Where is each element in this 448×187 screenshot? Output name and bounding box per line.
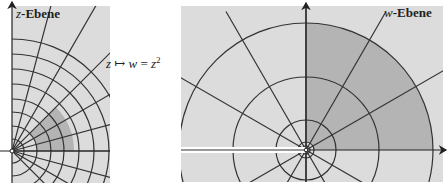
mapping-lhs: z <box>106 56 111 71</box>
z-plane-panel <box>0 0 212 187</box>
w-plane-word: -Ebene <box>393 5 432 20</box>
mapping-exponent: 2 <box>156 55 161 65</box>
maps-to-arrow: ↦ <box>114 56 125 71</box>
z-origin <box>10 149 14 153</box>
w-plane-label: w-Ebene <box>384 5 432 21</box>
w-plane-variable: w <box>384 5 393 20</box>
mapping-formula: z ↦ w = z2 <box>106 55 161 72</box>
z-plane-word: -Ebene <box>21 6 60 21</box>
w-origin <box>304 148 308 152</box>
w-plane-panel <box>167 0 446 187</box>
mapping-rhs-var: w <box>128 56 137 71</box>
equals-sign: = <box>140 56 147 71</box>
z-plane-label: z-Ebene <box>16 6 60 22</box>
conformal-map-diagram: z-Ebene z ↦ w = z2 w-Ebene <box>0 0 448 187</box>
diagram-canvas <box>0 0 448 187</box>
